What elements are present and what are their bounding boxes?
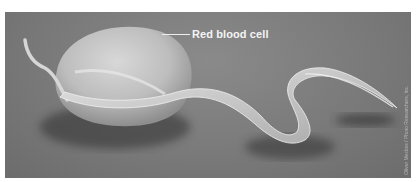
- red-blood-cell-label: Red blood cell: [192, 28, 269, 40]
- photo-credit: Oliver Meckes / Photo Researchers, Inc.: [403, 50, 411, 175]
- parasite-tip-shadow: [335, 114, 395, 126]
- label-leader-line: [162, 34, 190, 35]
